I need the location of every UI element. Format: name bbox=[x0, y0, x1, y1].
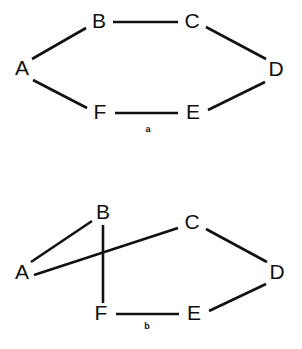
node-label-a: A bbox=[15, 56, 29, 79]
graph-edge-c-d bbox=[206, 27, 266, 59]
figure-stack: ABCDEFa ABCDEFb bbox=[0, 0, 302, 349]
node-label-c: C bbox=[184, 9, 199, 32]
figure-b: ABCDEFb bbox=[0, 175, 302, 349]
graph-edge-d-e bbox=[209, 284, 266, 311]
graph-edge-a-b bbox=[31, 221, 92, 262]
node-label-f: F bbox=[94, 100, 107, 123]
node-label-b: B bbox=[96, 200, 110, 223]
node-label-d: D bbox=[269, 260, 284, 283]
node-label-f: F bbox=[95, 301, 108, 324]
figure-caption: b bbox=[144, 321, 150, 331]
graph-edge-d-e bbox=[208, 82, 265, 110]
graph-edge-f-a bbox=[33, 80, 87, 108]
node-label-a: A bbox=[15, 260, 29, 283]
graph-edge-a-c bbox=[34, 228, 178, 275]
node-label-e: E bbox=[186, 100, 200, 123]
graph-a-canvas: ABCDEFa bbox=[0, 0, 302, 175]
figure-a: ABCDEFa bbox=[0, 0, 302, 175]
figure-caption: a bbox=[145, 124, 151, 134]
node-label-c: C bbox=[184, 210, 199, 233]
graph-edge-c-d bbox=[206, 229, 267, 262]
node-label-b: B bbox=[92, 9, 106, 32]
graph-b-canvas: ABCDEFb bbox=[0, 175, 302, 349]
graph-edge-a-b bbox=[32, 28, 86, 59]
node-label-d: D bbox=[268, 57, 283, 80]
node-label-e: E bbox=[187, 301, 201, 324]
